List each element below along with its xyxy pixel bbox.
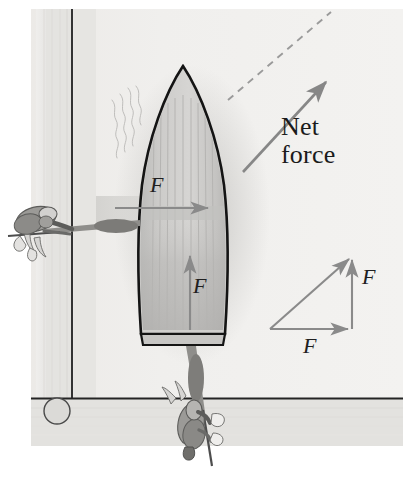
boat-vertical-force-label: F — [193, 274, 206, 297]
person-bottom-head — [186, 400, 202, 420]
physics-force-diagram: Net force F F F F — [0, 0, 403, 481]
net-force-label: Net force — [281, 113, 335, 168]
triangle-horizontal-force-label: F — [303, 334, 316, 357]
boat-transom — [141, 334, 225, 345]
triangle-vertical-force-label: F — [362, 265, 375, 288]
diagram-canvas — [0, 0, 403, 481]
mooring-post-circle — [44, 398, 70, 424]
boat-horizontal-force-label: F — [150, 173, 163, 196]
